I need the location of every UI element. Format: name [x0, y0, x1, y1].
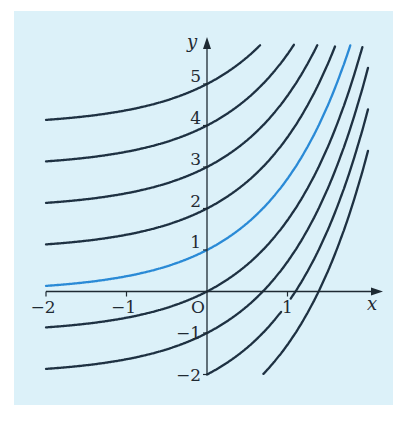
x-tick-label: −2 — [30, 297, 55, 317]
y-tick-label: −2 — [176, 365, 201, 385]
x-axis-label: x — [367, 293, 377, 314]
origin-label: O — [191, 297, 205, 317]
y-tick-label: 3 — [190, 149, 201, 169]
y-axis-label: y — [186, 31, 198, 52]
y-tick-label: 4 — [190, 108, 201, 128]
y-tick-label: 2 — [190, 191, 201, 211]
x-tick-label: 1 — [282, 297, 293, 317]
y-tick-label: −1 — [176, 323, 201, 343]
y-tick-label: 5 — [190, 66, 201, 86]
chart-figure: −2−1154321−1−2 x y O — [0, 0, 405, 422]
y-tick-label: 1 — [190, 232, 201, 252]
x-tick-label: −1 — [111, 297, 136, 317]
